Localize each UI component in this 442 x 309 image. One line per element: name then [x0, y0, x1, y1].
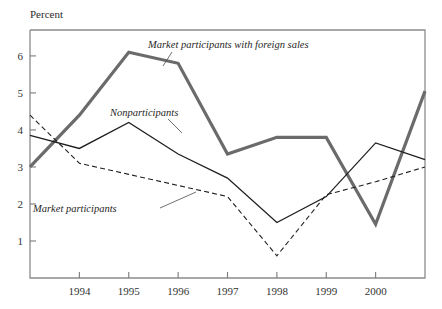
y-tick-label: 1 [18, 235, 24, 247]
series-line [30, 52, 425, 224]
series-annotation-label: Nonparticipants [109, 107, 178, 118]
series-group [30, 52, 425, 256]
line-chart-plot: 123456 1994199519961997199819992000 Mark… [0, 0, 442, 309]
x-tick-label: 1994 [68, 285, 91, 297]
x-tick-label: 2000 [365, 285, 388, 297]
y-tick-label: 4 [18, 124, 24, 136]
y-axis-tick-labels: 123456 [18, 50, 24, 247]
series-annotation-label: Market participants with foreign sales [147, 39, 309, 50]
series-line [30, 115, 425, 256]
x-tick-label: 1999 [315, 285, 338, 297]
x-axis-ticks [79, 272, 375, 278]
x-tick-label: 1995 [118, 285, 141, 297]
x-tick-label: 1996 [167, 285, 190, 297]
x-tick-label: 1997 [217, 285, 240, 297]
chart-container: 123456 1994199519961997199819992000 Mark… [0, 0, 442, 309]
y-tick-label: 3 [18, 161, 24, 173]
x-axis-tick-labels: 1994199519961997199819992000 [68, 285, 387, 297]
y-tick-label: 6 [18, 50, 24, 62]
annotation-leaders [160, 52, 196, 208]
series-annotation-label: Market participants [32, 203, 117, 214]
annotation-labels: Market participants with foreign salesNo… [32, 39, 309, 214]
y-axis-unit-label: Percent [30, 8, 63, 20]
annotation-leader-line [160, 192, 196, 208]
y-tick-label: 5 [18, 87, 24, 99]
x-tick-label: 1998 [266, 285, 289, 297]
annotation-leader-line [168, 119, 182, 133]
y-tick-label: 2 [18, 198, 24, 210]
